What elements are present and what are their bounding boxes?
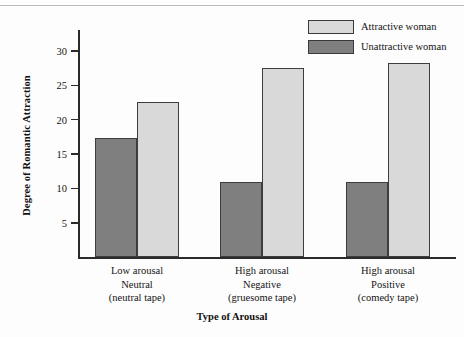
x-category-label-2-line-1: High arousal <box>200 264 324 278</box>
x-category-label-1-line-2: Neutral <box>75 278 199 292</box>
bar-attractive-woman-group-3 <box>388 63 430 258</box>
y-tick-10: 10 <box>71 188 78 189</box>
x-category-label-2: High arousalNegative(gruesome tape) <box>200 264 324 305</box>
y-tick-label-25: 25 <box>57 80 68 91</box>
top-divider <box>0 5 464 6</box>
y-tick-20: 20 <box>71 119 78 120</box>
y-tick-25: 25 <box>71 85 78 86</box>
y-tick-30: 30 <box>71 50 78 51</box>
y-tick-label-15: 15 <box>57 149 68 160</box>
x-category-label-1-line-1: Low arousal <box>75 264 199 278</box>
x-category-label-3-line-2: Positive <box>326 278 450 292</box>
plot-area: 51015202530 <box>78 30 456 259</box>
bar-unattractive-woman-group-1 <box>95 138 137 258</box>
x-category-label-2-line-3: (gruesome tape) <box>200 291 324 305</box>
y-tick-label-5: 5 <box>62 217 67 228</box>
x-axis-line <box>78 257 456 259</box>
bar-unattractive-woman-group-2 <box>220 182 262 258</box>
y-axis-title-text: Degree of Romantic Attraction <box>21 75 32 216</box>
x-category-label-3: High arousalPositive(comedy tape) <box>326 264 450 305</box>
y-tick-15: 15 <box>71 153 78 154</box>
bar-attractive-woman-group-1 <box>137 102 179 257</box>
x-category-label-3-line-3: (comedy tape) <box>326 291 450 305</box>
bar-attractive-woman-group-2 <box>262 68 304 257</box>
bar-unattractive-woman-group-3 <box>346 182 388 258</box>
bar-series-layer <box>78 30 456 257</box>
x-category-label-1: Low arousalNeutral(neutral tape) <box>75 264 199 305</box>
y-tick-label-20: 20 <box>57 114 68 125</box>
y-tick-5: 5 <box>71 222 78 223</box>
y-axis-title: Degree of Romantic Attraction <box>18 60 34 230</box>
x-category-label-3-line-1: High arousal <box>326 264 450 278</box>
x-category-label-1-line-3: (neutral tape) <box>75 291 199 305</box>
y-tick-label-10: 10 <box>57 183 68 194</box>
y-tick-label-30: 30 <box>57 45 68 56</box>
figure-canvas: Attractive woman Unattractive woman Degr… <box>0 0 464 337</box>
x-axis-category-labels: Low arousalNeutral(neutral tape)High aro… <box>78 264 456 310</box>
x-axis-title: Type of Arousal <box>0 311 464 322</box>
x-category-label-2-line-2: Negative <box>200 278 324 292</box>
